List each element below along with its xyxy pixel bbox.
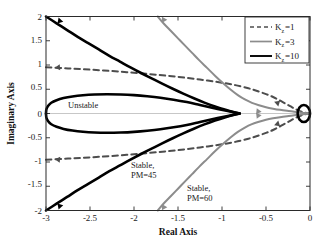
y-tick-label: 2 xyxy=(38,12,43,22)
x-tick-label: -2 xyxy=(130,213,138,223)
x-tick-label: 0 xyxy=(308,213,313,223)
y-tick-label: 1 xyxy=(38,59,43,69)
x-tick-label: -3 xyxy=(42,213,50,223)
annotation-stable-pm60-line1: Stable, xyxy=(187,183,210,193)
annotation-stable-pm45-line1: Stable, xyxy=(131,160,154,170)
y-tick-label: 0.5 xyxy=(31,82,43,92)
plot-canvas: -3 -2.5 -2 -1.5 -1 -0.5 0 2 1.5 1 0.5 0 … xyxy=(0,0,326,250)
root-locus-figure: -3 -2.5 -2 -1.5 -1 -0.5 0 2 1.5 1 0.5 0 … xyxy=(0,0,326,250)
x-tick-label: -1.5 xyxy=(171,213,186,223)
annotation-stable-pm45-line2: PM=45 xyxy=(131,170,157,180)
legend-label-kz1-value: =1 xyxy=(285,22,295,32)
y-tick-label: 1.5 xyxy=(31,35,43,45)
x-axis-title: Real Axis xyxy=(159,227,198,237)
x-tick-label: -1 xyxy=(218,213,226,223)
y-tick-label: -2 xyxy=(35,206,43,216)
y-tick-label: -0.5 xyxy=(28,132,43,142)
x-tick-label: -0.5 xyxy=(259,213,274,223)
annotation-unstable: Unstable xyxy=(68,100,98,110)
legend: K z =1 K z =3 K z =10 xyxy=(245,17,309,63)
x-tick-label: -2.5 xyxy=(83,213,98,223)
y-tick-label: -1.5 xyxy=(28,179,43,189)
annotation-stable-pm60-line2: PM=60 xyxy=(187,193,213,203)
y-tick-label: 0 xyxy=(38,109,43,119)
legend-label-kz3-value: =3 xyxy=(285,37,295,47)
legend-label-kz10-value: =10 xyxy=(285,51,300,61)
y-tick-label: -1 xyxy=(35,156,43,166)
y-axis-title: Imaginary Axis xyxy=(6,82,16,145)
